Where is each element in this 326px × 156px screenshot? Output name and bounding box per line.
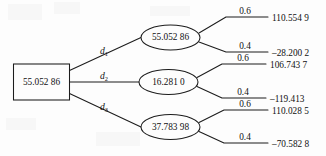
branch-label-d1: d1 <box>100 45 108 57</box>
outcome-edge-2-a <box>197 64 266 78</box>
chance-node-2-label: 16.281 0 <box>152 77 185 87</box>
outcome-edge-3-b <box>199 132 268 144</box>
probability-label-3-a: 0.6 <box>239 99 251 109</box>
outcome-edge-1-a <box>199 17 268 33</box>
tree-canvas: 55.052 86 d1 d2 d3 55.052 86 16.281 0 37… <box>0 0 326 156</box>
probability-label-1-b: 0.4 <box>239 41 251 51</box>
leaf-value-1-a: 110.554 9 <box>272 13 309 23</box>
leaf-value-3-b: –70.582 8 <box>271 139 310 149</box>
outcome-edge-3-a <box>199 110 268 123</box>
outcome-edge-2-b <box>197 87 266 99</box>
leaf-value-3-a: 110.028 5 <box>272 106 309 116</box>
root-node-label: 55.052 86 <box>23 77 61 87</box>
probability-label-1-a: 0.6 <box>239 6 251 16</box>
leaf-value-2-a: 106.743 7 <box>270 60 308 70</box>
chance-node-3-label: 37.783 98 <box>152 122 190 132</box>
branch-label-d2: d2 <box>100 70 108 82</box>
probability-label-2-b: 0.4 <box>237 87 249 97</box>
outcome-edge-1-b <box>199 42 268 52</box>
probability-label-2-a: 0.6 <box>237 53 249 63</box>
chance-node-1-label: 55.052 86 <box>152 32 190 42</box>
probability-label-3-b: 0.4 <box>239 132 251 142</box>
leaf-value-2-b: –119.413 <box>269 94 305 104</box>
decision-tree-diagram: 55.052 86 d1 d2 d3 55.052 86 16.281 0 37… <box>0 0 326 156</box>
branch-label-d3: d3 <box>100 101 108 113</box>
leaf-value-1-b: –28.200 2 <box>271 48 310 58</box>
